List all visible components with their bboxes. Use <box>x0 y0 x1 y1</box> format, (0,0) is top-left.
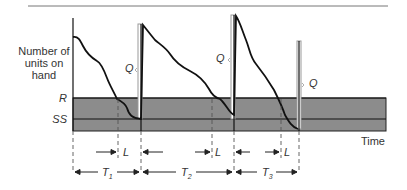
q-labels: Q Q Q <box>125 52 318 89</box>
q-label-3: Q <box>309 77 318 89</box>
x-axis-label: Time <box>361 135 385 147</box>
cycle-label-1: T1 <box>102 166 113 180</box>
y-axis-label-line2: units on <box>25 57 64 69</box>
inventory-diagram: Number of units on hand R SS Q Q Q L L L… <box>0 0 407 190</box>
lead-time-label-3: L <box>284 146 290 158</box>
y-axis-label-line1: Number of <box>18 45 70 57</box>
safety-stock-label: SS <box>52 113 67 125</box>
cycle-label-2: T2 <box>181 166 192 180</box>
y-axis-label-line3: hand <box>32 69 56 81</box>
q-label-2: Q <box>216 52 225 64</box>
safety-band <box>73 98 386 131</box>
lead-time-label-2: L <box>215 146 221 158</box>
reorder-point-label: R <box>59 92 67 104</box>
cycle-label-3: T3 <box>262 166 273 180</box>
q-label-1: Q <box>125 62 134 74</box>
lead-time-label-1: L <box>123 146 129 158</box>
